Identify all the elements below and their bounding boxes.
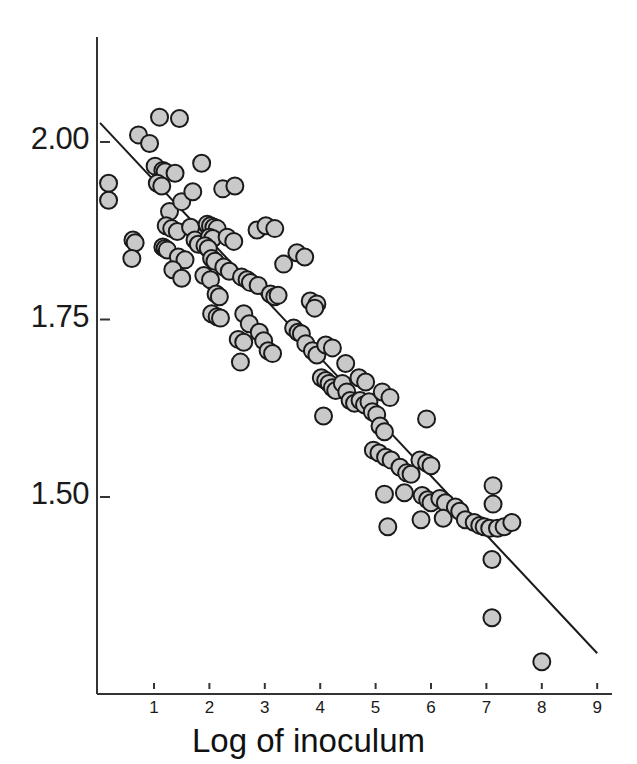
data-point	[357, 373, 374, 390]
data-point	[193, 155, 210, 172]
data-point	[235, 334, 252, 351]
data-point	[306, 300, 323, 317]
data-point	[100, 192, 117, 209]
data-point	[123, 250, 140, 267]
data-point	[266, 220, 283, 237]
data-point	[173, 270, 190, 287]
data-point	[418, 410, 435, 427]
data-point	[485, 496, 502, 513]
data-point	[153, 178, 170, 195]
data-point	[533, 653, 550, 670]
y-tick-label: 1.75	[0, 299, 89, 335]
data-point	[296, 249, 313, 266]
data-points	[100, 109, 550, 671]
y-tick-label: 2.00	[0, 121, 89, 157]
data-point	[413, 511, 430, 528]
data-point	[127, 234, 144, 251]
data-point	[483, 551, 500, 568]
chart-figure: 1.501.752.00123456789 Log of inoculum	[0, 0, 637, 764]
data-point	[270, 287, 287, 304]
data-point	[184, 183, 201, 200]
data-point	[100, 175, 117, 192]
x-tick-label: 8	[522, 698, 562, 718]
data-point	[324, 339, 341, 356]
data-point	[379, 518, 396, 535]
data-point	[225, 233, 242, 250]
data-point	[171, 110, 188, 127]
data-point	[337, 355, 354, 372]
x-tick-label: 1	[134, 698, 174, 718]
data-point	[315, 408, 332, 425]
data-point	[382, 389, 399, 406]
x-tick-label: 3	[245, 698, 285, 718]
data-point	[141, 135, 158, 152]
data-point	[167, 165, 184, 182]
data-point	[376, 423, 393, 440]
data-point	[212, 310, 229, 327]
y-tick-label: 1.50	[0, 476, 89, 512]
data-point	[423, 457, 440, 474]
data-point	[232, 354, 249, 371]
data-point	[485, 477, 502, 494]
data-point	[264, 345, 281, 362]
scatter-plot-canvas	[0, 0, 637, 764]
data-point	[211, 288, 228, 305]
data-point	[376, 486, 393, 503]
x-tick-label: 2	[189, 698, 229, 718]
data-point	[483, 609, 500, 626]
data-point	[396, 484, 413, 501]
x-tick-label: 5	[356, 698, 396, 718]
data-point	[226, 178, 243, 195]
x-tick-label: 9	[577, 698, 617, 718]
data-point	[503, 514, 520, 531]
x-tick-label: 7	[466, 698, 506, 718]
x-axis-title: Log of inoculum	[0, 722, 627, 760]
data-point	[151, 109, 168, 126]
x-tick-label: 4	[300, 698, 340, 718]
x-tick-label: 6	[411, 698, 451, 718]
